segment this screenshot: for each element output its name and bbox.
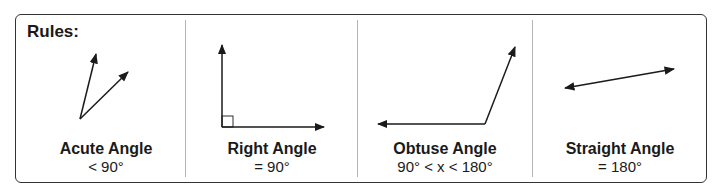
panel-rule: < 90° bbox=[20, 158, 192, 175]
panel-rule: = 90° bbox=[186, 158, 358, 175]
right-angle-panel: Right Angle = 90° bbox=[186, 0, 358, 193]
panel-name: Straight Angle bbox=[533, 140, 707, 158]
panel-rule: = 180° bbox=[533, 158, 707, 175]
acute-angle-panel: Acute Angle < 90° bbox=[20, 0, 192, 193]
panel-name: Obtuse Angle bbox=[358, 140, 532, 158]
obtuse-angle-panel: Obtuse Angle 90° < x < 180° bbox=[358, 0, 532, 193]
straight-angle-panel: Straight Angle = 180° bbox=[533, 0, 707, 193]
panel-name: Right Angle bbox=[186, 140, 358, 158]
panel-name: Acute Angle bbox=[20, 140, 192, 158]
panel-rule: 90° < x < 180° bbox=[358, 158, 532, 175]
